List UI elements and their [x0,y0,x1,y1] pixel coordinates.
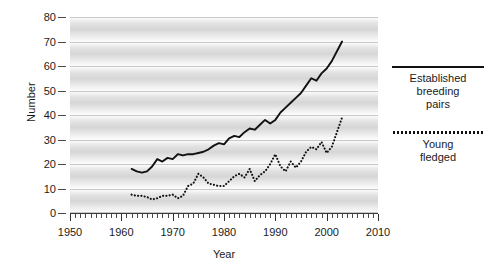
y-axis-tick-mark [58,66,66,67]
legend-label-line-2: fledged [390,151,486,164]
x-axis-major-tick [327,214,328,221]
x-axis-minor-tick [193,214,194,218]
y-axis-tick-mark [58,140,66,141]
x-axis-minor-tick [96,214,97,218]
y-axis-tick-mark [58,115,66,116]
series-line [132,42,342,173]
x-axis-minor-tick [322,214,323,218]
x-axis-minor-tick [214,214,215,218]
x-axis-minor-tick [239,214,240,218]
x-axis-minor-tick [85,214,86,218]
x-axis-minor-tick [260,214,261,218]
x-axis-minor-tick [91,214,92,218]
x-axis-tick-label: 1960 [109,226,133,238]
x-axis-minor-tick [270,214,271,218]
legend-item-established-breeding-pairs: Established breeding pairs [390,66,486,111]
y-axis-tick-label: 80 [44,11,56,23]
x-axis-tick-label: 2010 [366,226,390,238]
y-axis-tick-mark [58,42,66,43]
legend-label-line-2: breeding [390,85,486,98]
x-axis-major-tick [224,214,225,221]
legend-label-line-1: Established [390,72,486,85]
x-axis-title: Year [70,248,378,260]
x-axis-minor-tick [250,214,251,218]
x-axis-minor-tick [265,214,266,218]
y-axis-tick-label: 20 [44,158,56,170]
y-axis-tick-label: 70 [44,36,56,48]
x-axis-minor-tick [342,214,343,218]
series-layer [70,17,378,213]
x-axis-minor-tick [337,214,338,218]
x-axis-ticks [70,214,378,222]
legend-swatch-dotted-line [392,131,484,134]
x-axis-minor-tick [352,214,353,218]
x-axis-minor-tick [219,214,220,218]
x-axis-minor-tick [178,214,179,218]
x-axis-major-tick [173,214,174,221]
y-axis-ticks: 01020304050607080 [0,0,68,280]
x-axis-minor-tick [357,214,358,218]
x-axis-minor-tick [203,214,204,218]
y-axis-tick-mark [58,17,66,18]
legend-label-line-1: Young [390,138,486,151]
x-axis-tick-label: 1950 [58,226,82,238]
x-axis-minor-tick [234,214,235,218]
y-axis-tick-label: 40 [44,109,56,121]
x-axis-tick-label: 1980 [212,226,236,238]
y-axis-tick-mark [58,213,66,214]
x-axis-minor-tick [209,214,210,218]
x-axis-tick-label: 1970 [160,226,184,238]
x-axis-minor-tick [126,214,127,218]
series-line [132,117,342,199]
x-axis-minor-tick [142,214,143,218]
x-axis-minor-tick [132,214,133,218]
x-axis-minor-tick [306,214,307,218]
x-axis-minor-tick [255,214,256,218]
x-axis-minor-tick [198,214,199,218]
x-axis-tick-label: 2000 [314,226,338,238]
legend-label-line-3: pairs [390,98,486,111]
x-axis-minor-tick [373,214,374,218]
x-axis-major-tick [378,214,379,221]
x-axis-minor-tick [280,214,281,218]
x-axis-major-tick [121,214,122,221]
x-axis-minor-tick [183,214,184,218]
x-axis-major-tick [275,214,276,221]
x-axis-major-tick [70,214,71,221]
x-axis-minor-tick [316,214,317,218]
x-axis-minor-tick [101,214,102,218]
y-axis-tick-label: 60 [44,60,56,72]
x-axis-tick-label: 1990 [263,226,287,238]
x-axis-minor-tick [75,214,76,218]
x-axis-minor-tick [332,214,333,218]
x-axis-minor-tick [229,214,230,218]
plot-area [70,17,378,213]
x-axis-minor-tick [347,214,348,218]
x-axis-minor-tick [152,214,153,218]
x-axis-minor-tick [147,214,148,218]
x-axis-minor-tick [363,214,364,218]
x-axis-minor-tick [368,214,369,218]
x-axis-minor-tick [80,214,81,218]
y-axis-tick-mark [58,164,66,165]
y-axis-tick-label: 50 [44,85,56,97]
x-axis-minor-tick [168,214,169,218]
y-axis-tick-label: 30 [44,134,56,146]
x-axis-minor-tick [311,214,312,218]
y-axis-tick-label: 10 [44,183,56,195]
chart-legend: Established breeding pairs Young fledged [390,66,486,164]
legend-swatch-solid-line [392,66,484,68]
x-axis-minor-tick [116,214,117,218]
x-axis-minor-tick [286,214,287,218]
x-axis-minor-tick [137,214,138,218]
y-axis-tick-mark [58,189,66,190]
x-axis-minor-tick [111,214,112,218]
legend-item-young-fledged: Young fledged [390,131,486,164]
x-axis-minor-tick [188,214,189,218]
x-axis-minor-tick [245,214,246,218]
y-axis-tick-label: 0 [50,207,56,219]
x-axis-minor-tick [291,214,292,218]
chart-figure: Number 01020304050607080 Year Establishe… [0,0,489,280]
x-axis-minor-tick [162,214,163,218]
y-axis-tick-mark [58,91,66,92]
